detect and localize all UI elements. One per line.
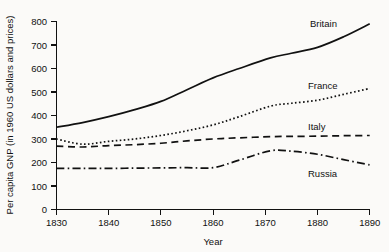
x-tick-label-1860: 1860 — [203, 217, 224, 228]
series-label-italy: Italy — [308, 121, 326, 132]
y-tick-label-800: 800 — [31, 16, 47, 27]
series-label-russia: Russia — [308, 168, 338, 179]
x-tick-label-1850: 1850 — [150, 217, 171, 228]
x-tick-label-1870: 1870 — [255, 217, 276, 228]
chart-background — [0, 0, 389, 252]
y-tick-label-300: 300 — [31, 134, 47, 145]
x-axis-title: Year — [203, 236, 222, 247]
gnp-line-chart: 0 100 200 300 400 500 600 700 800 1830 1… — [0, 0, 389, 252]
y-tick-label-0: 0 — [42, 204, 47, 215]
x-tick-label-1840: 1840 — [98, 217, 119, 228]
x-tick-label-1830: 1830 — [46, 217, 67, 228]
series-label-britain: Britain — [310, 18, 337, 29]
y-tick-label-100: 100 — [31, 181, 47, 192]
x-tick-label-1890: 1890 — [359, 217, 380, 228]
y-tick-label-200: 200 — [31, 157, 47, 168]
series-label-france: France — [308, 80, 338, 91]
chart-page: 0 100 200 300 400 500 600 700 800 1830 1… — [0, 0, 389, 252]
y-tick-label-400: 400 — [31, 110, 47, 121]
y-tick-label-500: 500 — [31, 87, 47, 98]
x-tick-label-1880: 1880 — [307, 217, 328, 228]
y-axis-title: Per capita GNP (in 1960 US dollars and p… — [4, 16, 15, 215]
y-tick-label-600: 600 — [31, 63, 47, 74]
y-tick-label-700: 700 — [31, 40, 47, 51]
